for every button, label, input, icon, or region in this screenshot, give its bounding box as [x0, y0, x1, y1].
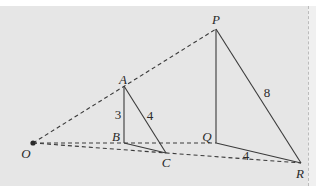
length-QR: 4	[243, 149, 250, 162]
length-AC: 4	[147, 109, 154, 122]
label-point-R: R	[296, 167, 304, 180]
label-point-P: P	[212, 13, 220, 26]
label-point-Q: Q	[202, 130, 211, 143]
length-AB: 3	[115, 108, 122, 121]
segment-PR	[216, 29, 301, 163]
point-O-dot	[30, 140, 35, 145]
label-point-C: C	[162, 156, 171, 169]
length-PR: 8	[264, 86, 271, 99]
label-point-A: A	[119, 73, 127, 86]
label-point-O: O	[21, 147, 30, 160]
label-point-B: B	[112, 130, 120, 143]
